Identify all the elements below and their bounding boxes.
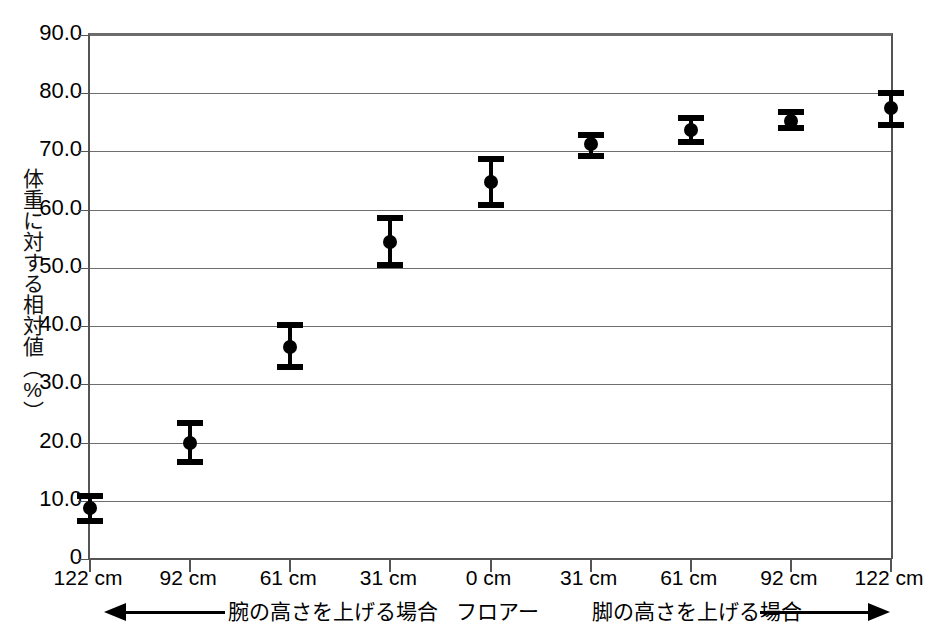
gridline [90,35,891,36]
error-bar-cap-upper [878,90,904,96]
error-bar-cap-upper [377,215,403,221]
error-bar-cap-lower [277,364,303,370]
error-bar-cap-lower [377,262,403,268]
gridline [90,384,891,385]
y-tick-label: 40.0 [10,313,82,335]
error-bar-cap-lower [77,518,103,524]
y-tick-mark [78,443,90,444]
error-bar-cap-lower [478,202,504,208]
error-bar-cap-upper [478,156,504,162]
annotation-band: 腕の高さを上げる場合 フロアー 脚の高さを上げる場合 [0,598,941,632]
error-bar-cap-lower [678,139,704,145]
y-tick-mark [78,326,90,327]
y-tick-mark [78,384,90,385]
data-marker [884,101,898,115]
data-marker [484,175,498,189]
y-tick-mark [78,210,90,211]
gridline [90,210,891,211]
y-tick-label: 10.0 [10,488,82,510]
y-tick-label: 80.0 [10,80,82,102]
gridline [90,93,891,94]
data-marker [584,137,598,151]
data-marker [784,114,798,128]
annotation-left-label: 腕の高さを上げる場合 [228,598,438,626]
y-tick-mark [78,35,90,36]
left-arrow-line [125,611,225,614]
error-bar-cap-upper [177,420,203,426]
y-tick-label: 90.0 [10,22,82,44]
y-tick-mark [78,151,90,152]
chart-figure: 体重に対する相対値（%） 90.080.070.060.050.040.030.… [0,0,941,635]
y-tick-label: 20.0 [10,430,82,452]
data-marker [684,123,698,137]
plot-inner [90,35,891,559]
y-tick-mark [78,268,90,269]
gridline [90,443,891,444]
data-marker [183,436,197,450]
y-tick-label: 70.0 [10,138,82,160]
annotation-center-label: フロアー [456,598,539,626]
y-axis-tick-labels: 90.080.070.060.050.040.030.020.010.00 [8,0,82,635]
x-tick-label: 122 cm [819,566,941,590]
error-bar-cap-lower [878,122,904,128]
error-bar-cap-upper [277,322,303,328]
y-tick-mark [78,93,90,94]
error-bar-cap-lower [177,459,203,465]
left-arrow-icon [104,603,126,621]
plot-area [88,33,893,559]
y-tick-label: 0 [10,546,82,568]
x-axis-tick-labels: 122 cm92 cm61 cm31 cm0 cm31 cm61 cm92 cm… [0,566,941,596]
error-bar-cap-upper [678,115,704,121]
y-tick-label: 60.0 [10,197,82,219]
data-marker [383,235,397,249]
y-tick-label: 30.0 [10,371,82,393]
gridline [90,501,891,502]
y-tick-label: 50.0 [10,255,82,277]
error-bar-cap-upper [77,493,103,499]
gridline [90,151,891,152]
data-marker [283,340,297,354]
error-bar-cap-lower [578,153,604,159]
right-arrow-line [760,611,870,614]
gridline [90,268,891,269]
data-marker [83,501,97,515]
right-arrow-icon [868,603,890,621]
gridline [90,326,891,327]
